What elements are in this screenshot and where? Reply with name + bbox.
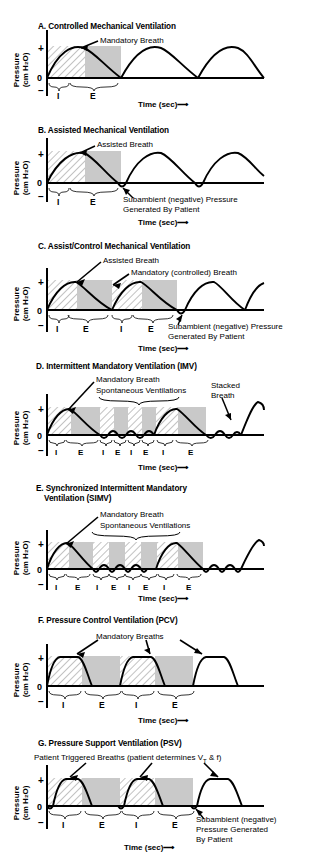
ytick-minus: – bbox=[38, 320, 44, 331]
ytick-plus: + bbox=[38, 149, 44, 160]
phase-I: I bbox=[62, 700, 64, 710]
phase-E: E bbox=[111, 583, 117, 592]
phase-E: E bbox=[186, 583, 192, 592]
ytick-zero: 0 bbox=[37, 431, 42, 441]
phase-I: I bbox=[163, 583, 165, 592]
ytick-plus: + bbox=[38, 539, 44, 550]
phase-I: I bbox=[128, 583, 130, 592]
phase-E: E bbox=[90, 91, 96, 101]
ytick-plus: + bbox=[38, 43, 44, 54]
phase-E: E bbox=[83, 324, 89, 334]
phase-I: I bbox=[57, 197, 59, 207]
phase-I: I bbox=[130, 448, 132, 457]
panel-E-plot: + 0 – I E I E I E I E bbox=[0, 480, 318, 608]
phase-I: I bbox=[135, 820, 137, 830]
panel-F-plot: + 0 – I E I E bbox=[0, 608, 318, 733]
panel-D-plot: + 0 – I E I E I E I E bbox=[0, 358, 318, 480]
ytick-minus: – bbox=[38, 85, 44, 96]
panel-B-plot: + 0 – I E bbox=[0, 118, 318, 236]
phase-E: E bbox=[188, 448, 194, 457]
phase-I: I bbox=[162, 448, 164, 457]
ytick-minus: – bbox=[38, 191, 44, 202]
phase-I: I bbox=[62, 820, 64, 830]
phase-I: I bbox=[102, 448, 104, 457]
ytick-minus: – bbox=[38, 696, 44, 707]
ytick-minus: – bbox=[38, 579, 44, 590]
panel-A-plot: + 0 – I E bbox=[0, 0, 318, 118]
panel-A: A. Controlled Mechanical Ventilation Pre… bbox=[0, 0, 318, 118]
ytick-zero: 0 bbox=[37, 306, 42, 316]
ytick-plus: + bbox=[38, 404, 44, 415]
phase-I: I bbox=[57, 91, 59, 101]
panel-C-plot: + 0 – I E I E bbox=[0, 236, 318, 358]
phase-I: I bbox=[96, 583, 98, 592]
panel-G: G. Pressure Support Ventilation (PSV) Pr… bbox=[0, 733, 318, 856]
panel-C: C. Assist/Control Mechanical Ventilation… bbox=[0, 236, 318, 358]
ytick-zero: 0 bbox=[37, 682, 42, 692]
panel-F: F. Pressure Control Ventilation (PCV) Pr… bbox=[0, 608, 318, 733]
ytick-zero: 0 bbox=[37, 178, 42, 188]
phase-E: E bbox=[172, 700, 178, 710]
ytick-zero: 0 bbox=[37, 565, 42, 575]
ytick-plus: + bbox=[38, 277, 44, 288]
ytick-minus: – bbox=[38, 445, 44, 456]
phase-I: I bbox=[135, 700, 137, 710]
phase-E: E bbox=[90, 197, 96, 207]
ytick-zero: 0 bbox=[37, 802, 42, 812]
phase-I: I bbox=[55, 583, 57, 592]
phase-I: I bbox=[56, 324, 58, 334]
ytick-zero: 0 bbox=[37, 73, 42, 83]
phase-I: I bbox=[120, 324, 122, 334]
phase-E: E bbox=[172, 820, 178, 830]
phase-E: E bbox=[99, 700, 105, 710]
panel-D: D. Intermittent Mandatory Ventilation (I… bbox=[0, 358, 318, 480]
phase-E: E bbox=[148, 324, 154, 334]
ytick-minus: – bbox=[38, 817, 44, 828]
phase-I: I bbox=[55, 448, 57, 457]
panel-E: E. Synchronized Intermittent Mandatory V… bbox=[0, 480, 318, 608]
phase-E: E bbox=[115, 448, 121, 457]
phase-E: E bbox=[143, 448, 149, 457]
phase-E: E bbox=[99, 820, 105, 830]
panel-G-plot: + 0 – I E I E bbox=[0, 733, 318, 856]
phase-E: E bbox=[75, 583, 81, 592]
ytick-plus: + bbox=[38, 653, 44, 664]
ytick-plus: + bbox=[38, 775, 44, 786]
phase-E: E bbox=[78, 448, 84, 457]
panel-B: B. Assisted Mechanical Ventilation Press… bbox=[0, 118, 318, 236]
phase-E: E bbox=[143, 583, 149, 592]
